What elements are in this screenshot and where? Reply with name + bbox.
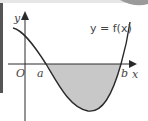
- y-axis-arrow-icon: [21, 11, 29, 20]
- root-b-label: b: [121, 67, 128, 80]
- x-axis-label: x: [132, 68, 139, 81]
- root-a-label: a: [37, 67, 44, 80]
- shaded-area: [46, 64, 121, 111]
- function-label: y = f(x): [90, 22, 132, 35]
- function-graph: y x O a b y = f(x): [0, 0, 148, 121]
- origin-label: O: [16, 67, 25, 80]
- y-axis-label: y: [13, 12, 21, 25]
- x-axis-arrow-icon: [129, 60, 137, 68]
- left-edge-bar: [0, 3, 3, 93]
